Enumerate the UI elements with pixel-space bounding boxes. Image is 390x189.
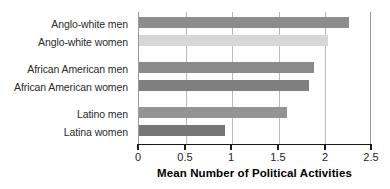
category-label-latino-men: Latino men	[77, 109, 128, 120]
bar-anglo-white-women	[139, 35, 328, 46]
bar-latina-women	[139, 125, 225, 136]
category-label-anglo-white-women: Anglo-white women	[38, 37, 128, 48]
x-tick-2	[324, 144, 326, 150]
x-tick-label-0.5: 0.5	[177, 151, 192, 163]
gridline-1	[232, 12, 233, 144]
gridline-2	[325, 12, 326, 144]
category-label-african-american-women: African American women	[14, 82, 128, 93]
x-tick-1.5	[277, 144, 279, 150]
bar-african-american-men	[139, 62, 314, 73]
x-tick-label-0: 0	[135, 151, 141, 163]
x-tick-label-1.5: 1.5	[270, 151, 285, 163]
x-tick-label-2.5: 2.5	[363, 151, 378, 163]
x-tick-label-2: 2	[322, 151, 328, 163]
x-tick-2.5	[370, 144, 372, 150]
bar-african-american-women	[139, 80, 309, 91]
gridline-1.5	[279, 12, 280, 144]
bar-anglo-white-men	[139, 17, 349, 28]
bar-chart: Anglo-white men Anglo-white women Africa…	[0, 0, 390, 189]
plot-area	[138, 12, 371, 145]
category-label-latina-women: Latina women	[64, 127, 128, 138]
x-axis-title: Mean Number of Political Activities	[138, 167, 371, 179]
x-tick-0.5	[184, 144, 186, 150]
x-tick-label-1: 1	[228, 151, 234, 163]
category-label-african-american-men: African American men	[27, 64, 128, 75]
category-label-anglo-white-men: Anglo-white men	[51, 19, 128, 30]
bar-latino-men	[139, 107, 287, 118]
category-axis-labels: Anglo-white men Anglo-white women Africa…	[0, 12, 133, 145]
x-tick-0	[137, 144, 139, 150]
x-tick-1	[230, 144, 232, 150]
